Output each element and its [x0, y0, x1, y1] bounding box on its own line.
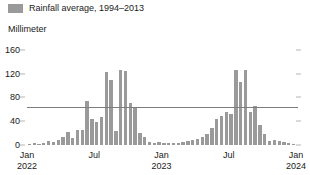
bar: [287, 143, 290, 145]
y-axis-unit-label: Millimeter: [8, 24, 47, 34]
bar: [249, 112, 252, 145]
axis-tick-mark: [296, 145, 301, 146]
bar: [90, 119, 93, 145]
bar: [52, 142, 55, 145]
axis-tick-mark: [20, 73, 25, 74]
bar: [181, 142, 184, 145]
bar: [148, 142, 151, 145]
axis-tick-mark: [20, 97, 25, 98]
y-axis-tick-80: 80: [10, 93, 20, 102]
bar: [186, 141, 189, 145]
bar: [100, 117, 103, 145]
bar: [215, 119, 218, 145]
axis-tick-mark: [296, 73, 301, 74]
bar: [282, 142, 285, 145]
bar-series-rainfall-average: [27, 38, 296, 148]
bar: [177, 143, 180, 145]
bar: [61, 137, 64, 145]
axis-tick-mark: [296, 121, 301, 122]
axis-tick-mark: [20, 121, 25, 122]
bar: [278, 141, 281, 145]
chart-legend: Rainfall average, 1994–2013: [8, 3, 144, 13]
bar: [143, 137, 146, 145]
bar: [109, 80, 112, 145]
bar: [153, 143, 156, 145]
axis-tick-mark: [20, 49, 25, 50]
x-axis-tick-Jan-2023: Jan2023: [151, 150, 171, 172]
bar: [37, 144, 40, 145]
bar: [263, 134, 266, 145]
bar: [253, 106, 256, 145]
bar: [114, 131, 117, 145]
bar: [162, 143, 165, 145]
bar: [81, 130, 84, 145]
bar: [47, 141, 50, 145]
bar: [258, 125, 261, 145]
x-axis-baseline: [27, 107, 298, 108]
bar: [28, 144, 31, 145]
bar: [220, 116, 223, 145]
bar: [292, 144, 295, 145]
bar: [95, 122, 98, 145]
bar: [191, 140, 194, 145]
y-axis-tick-40: 40: [10, 117, 20, 126]
bar: [273, 140, 276, 145]
y-axis-tick-120: 120: [5, 69, 20, 78]
axis-tick-mark: [296, 97, 301, 98]
bar: [172, 143, 175, 145]
bar: [105, 72, 108, 145]
axis-tick-mark: [20, 145, 25, 146]
x-axis-tick-labels: Jan2022JulJan2023JulJan2024: [0, 150, 310, 175]
bar: [239, 82, 242, 145]
bar: [210, 128, 213, 145]
bar: [201, 137, 204, 145]
x-axis-tick-Jul: Jul: [88, 150, 100, 161]
x-axis-tick-Jan-2022: Jan2022: [17, 150, 37, 172]
bar: [205, 134, 208, 145]
x-axis-tick-Jul: Jul: [223, 150, 235, 161]
bar: [225, 112, 228, 145]
bar: [129, 103, 132, 145]
plot-area: 04080120160: [0, 38, 310, 148]
bar: [268, 141, 271, 145]
bar: [76, 130, 79, 145]
y-axis-ticks-right: [296, 38, 302, 148]
bar: [66, 132, 69, 145]
bar: [42, 143, 45, 145]
bar: [229, 114, 232, 145]
legend-swatch-icon: [8, 4, 23, 13]
bar: [157, 142, 160, 145]
x-axis-tick-Jan-2024: Jan2024: [286, 150, 306, 172]
bar: [33, 143, 36, 145]
y-axis-tick-160: 160: [5, 45, 20, 54]
bar: [167, 143, 170, 145]
bar: [57, 140, 60, 145]
bar: [71, 138, 74, 145]
y-axis-ticks-left: [20, 38, 26, 148]
bar: [133, 107, 136, 145]
legend-label: Rainfall average, 1994–2013: [29, 3, 144, 13]
axis-tick-mark: [296, 49, 301, 50]
bar: [196, 139, 199, 145]
bar: [138, 133, 141, 145]
